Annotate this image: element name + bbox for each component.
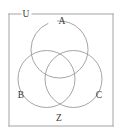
set-label-c: C <box>96 90 102 100</box>
universal-set-rectangle <box>9 14 113 126</box>
set-label-a: A <box>59 16 66 26</box>
set-label-b: B <box>18 90 24 100</box>
set-circle-a <box>31 21 88 78</box>
universal-set-label: U <box>23 9 30 19</box>
venn-diagram-figure: U A B C Z <box>0 0 122 135</box>
set-circle-b <box>18 51 75 108</box>
venn-diagram-canvas: U A B C Z <box>0 0 122 135</box>
region-label-z: Z <box>56 113 62 123</box>
set-circle-c <box>45 51 102 108</box>
